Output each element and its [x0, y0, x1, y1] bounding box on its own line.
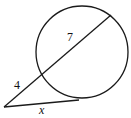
label-external-segment: 4: [14, 79, 20, 91]
secant-tangent-diagram: 4 7 x: [0, 0, 131, 118]
secant-line: [4, 15, 111, 107]
label-tangent-segment: x: [39, 104, 44, 116]
circle: [36, 6, 128, 98]
diagram-canvas: [0, 0, 131, 118]
label-internal-segment: 7: [67, 31, 73, 43]
